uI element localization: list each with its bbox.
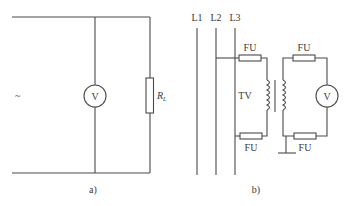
line-label-l3: L3 [229,12,240,23]
secondary-coil-icon [283,80,286,110]
resistor-icon [146,78,154,113]
secondary-wire-bottom [283,110,294,136]
circuit-diagrams: ~ V RL a) L1 L2 L3 FU FU TV [0,0,351,206]
fuse-label-primary-top: FU [244,42,258,53]
panel-a: ~ V RL a) [12,17,167,196]
voltmeter-b-label: V [323,91,331,102]
fuse-primary-top-icon [239,55,261,61]
line-label-l1: L1 [191,12,202,23]
fuse-secondary-bottom-icon [294,133,316,139]
caption-a: a) [89,184,97,196]
fuse-label-primary-bottom: FU [245,142,259,153]
secondary-wire-top [283,58,293,80]
panel-b: L1 L2 L3 FU FU TV FU V FU b) [191,12,338,196]
caption-b: b) [252,184,260,196]
ac-source-symbol: ~ [15,90,21,101]
line-label-l2: L2 [210,12,221,23]
primary-wire-bottom [262,110,267,136]
voltmeter-b-wire-top [315,58,327,85]
transformer-label: TV [238,90,252,101]
voltmeter-label: V [91,91,99,102]
fuse-label-secondary-bottom: FU [299,142,313,153]
fuse-primary-bottom-icon [240,133,262,139]
fuse-label-secondary-top: FU [298,42,312,53]
primary-coil-icon [267,80,270,110]
fuse-secondary-top-icon [293,55,315,61]
primary-wire-top [261,58,267,80]
resistor-label: RL [156,90,167,102]
voltmeter-b-wire-bottom [316,107,327,136]
